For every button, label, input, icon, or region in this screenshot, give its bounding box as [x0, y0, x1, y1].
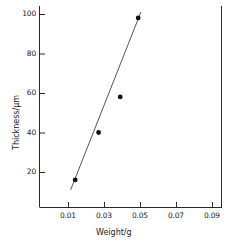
chart-figure: 20406080100 0.010.030.050.070.09 Thickne… — [0, 0, 239, 248]
data-point — [136, 16, 141, 21]
fitted-line — [71, 12, 141, 190]
data-point — [96, 130, 101, 135]
y-axis-ticks — [40, 15, 46, 173]
x-tick-label: 0.03 — [90, 211, 118, 220]
y-tick-label: 20 — [0, 167, 36, 176]
x-axis-label: Weight/g — [96, 228, 132, 237]
x-tick-label: 0.07 — [162, 211, 190, 220]
x-tick-label: 0.09 — [198, 211, 226, 220]
trend-line — [71, 12, 141, 190]
data-point — [73, 178, 78, 183]
y-tick-label: 80 — [0, 49, 36, 58]
x-axis-ticks — [69, 202, 213, 208]
y-axis-label: Thickness/µm — [12, 95, 21, 150]
data-point — [118, 95, 123, 100]
x-tick-label: 0.01 — [54, 211, 82, 220]
x-tick-label: 0.05 — [126, 211, 154, 220]
y-tick-label: 100 — [0, 9, 36, 18]
